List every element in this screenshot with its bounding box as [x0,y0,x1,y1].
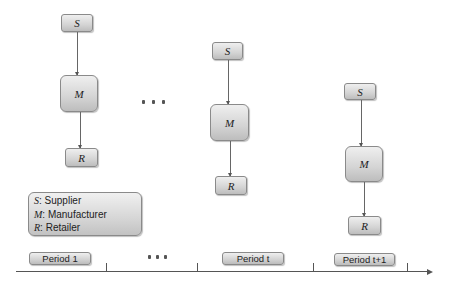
retailer-node-period-t: R [215,176,247,195]
legend-item-supplier: S: Supplier [34,194,141,208]
retailer-label: R [361,220,368,232]
retailer-label: R [228,180,235,192]
period-1-label: Period 1 [29,252,91,265]
supplier-label: S [357,86,363,98]
period-t1-label: Period t+1 [334,253,395,266]
arrow-supplier-to-manufacturer [361,100,362,146]
manufacturer-node-period-t: M [210,104,249,141]
legend-item-retailer: R: Retailer [34,221,141,235]
supplier-node-period-t1: S [344,83,376,100]
manufacturer-label: M [74,88,83,100]
timeline-arrowhead-icon [427,269,433,275]
timeline-tick [313,263,314,271]
timeline-tick [407,263,408,271]
legend-box: S: Supplier M: Manufacturer R: Retailer [28,192,142,236]
timeline-axis [16,271,430,272]
retailer-node-period-t1: R [348,216,381,235]
period-t-label: Period t [222,252,284,265]
supplier-node-period-1: S [61,14,93,32]
arrow-supplier-to-manufacturer [77,32,78,75]
supplier-label: S [74,17,80,29]
arrow-manufacturer-to-retailer [230,141,231,176]
timeline-tick [197,263,198,271]
manufacturer-node-period-1: M [60,75,98,112]
arrow-manufacturer-to-retailer [364,182,365,216]
retailer-node-period-1: R [65,148,98,167]
supplier-label: S [225,45,231,57]
manufacturer-node-period-t1: M [345,146,383,182]
retailer-label: R [78,152,85,164]
ellipsis-dots [142,100,165,104]
legend-item-manufacturer: M: Manufacturer [34,208,141,222]
manufacturer-label: M [225,117,234,129]
arrow-manufacturer-to-retailer [80,112,81,148]
timeline-tick [106,263,107,271]
arrow-supplier-to-manufacturer [228,60,229,104]
timeline-ellipsis-dots [148,255,167,259]
supplier-node-period-t: S [212,42,243,60]
manufacturer-label: M [359,158,368,170]
